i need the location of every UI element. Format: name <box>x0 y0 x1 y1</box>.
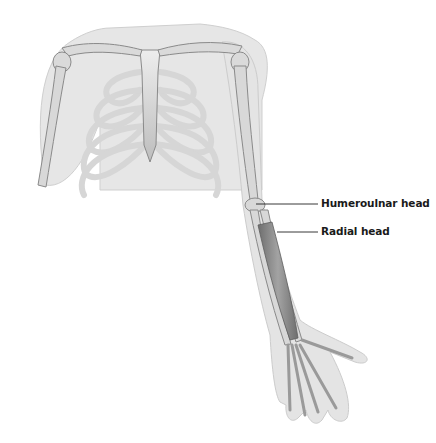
anatomy-illustration <box>0 0 436 443</box>
anatomy-figure: Humeroulnar head Radial head <box>0 0 436 443</box>
label-radial-head: Radial head <box>321 225 390 237</box>
skin-silhouette <box>40 24 367 423</box>
label-humeroulnar-head: Humeroulnar head <box>321 197 430 209</box>
